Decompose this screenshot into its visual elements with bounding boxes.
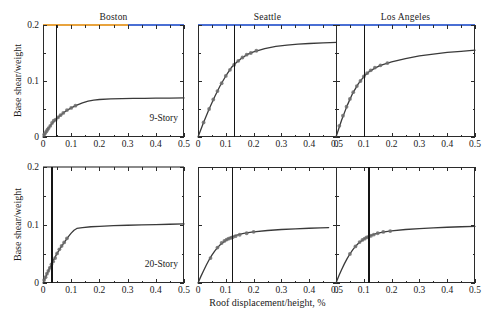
x-tick-label: 0.2 (93, 285, 105, 295)
y-tick-right (471, 283, 475, 284)
data-point-markers (348, 229, 392, 256)
x-tick-top (184, 167, 185, 171)
y-tick-right (471, 137, 475, 138)
panel-seattle-20story (198, 167, 337, 283)
panel-boston-9story: 9-Story (43, 25, 184, 137)
x-tick-label: 0.4 (303, 285, 315, 295)
x-tick-label: 0.1 (65, 139, 77, 149)
median-line (364, 25, 365, 137)
median-line (232, 167, 233, 283)
x-tick-label: 0.2 (386, 285, 398, 295)
x-tick-label: 0.2 (93, 139, 105, 149)
median-line (368, 167, 369, 283)
x-tick-label: 0.5 (469, 285, 481, 295)
x-tick-label: 0.4 (303, 139, 315, 149)
x-tick-label: 0.1 (220, 285, 232, 295)
story-label: 20-Story (145, 259, 178, 269)
x-tick-label: 0 (196, 285, 201, 295)
x-tick-label: 0.5 (178, 285, 190, 295)
x-tick-label: 0 (41, 285, 46, 295)
x-tick-label: 0 (334, 285, 339, 295)
column-title-seattle: Seattle (198, 12, 337, 22)
median-line (56, 25, 57, 137)
x-tick-label: 0.3 (413, 285, 425, 295)
y-tick-label: 0 (15, 278, 39, 288)
column-title-boston: Boston (43, 12, 184, 22)
y-tick-right (180, 137, 184, 138)
x-tick-label: 0.4 (441, 139, 453, 149)
x-tick (475, 279, 476, 283)
x-tick-label: 0 (334, 139, 339, 149)
x-tick-label: 0.2 (386, 139, 398, 149)
y-tick-right (180, 283, 184, 284)
column-title-los-angeles: Los Angeles (336, 12, 475, 22)
x-tick-label: 0.4 (441, 285, 453, 295)
x-tick-label: 0.4 (150, 285, 162, 295)
x-tick-top (475, 25, 476, 29)
x-tick-label: 0.1 (220, 139, 232, 149)
data-point-markers (42, 236, 69, 282)
panel-boston-20story: 20-Story (43, 167, 184, 283)
data-point-markers (42, 104, 77, 137)
pushover-curve (336, 167, 475, 283)
panel-seattle-9story (198, 25, 337, 137)
median-line (234, 25, 235, 137)
panel-losangeles-9story (336, 25, 475, 137)
x-tick-label: 0 (41, 139, 46, 149)
x-tick-label: 0.3 (275, 139, 287, 149)
pushover-curve (198, 25, 337, 137)
y-tick-label: 0 (15, 132, 39, 142)
x-tick-label: 0.1 (358, 285, 370, 295)
x-tick-label: 0.2 (248, 285, 260, 295)
x-tick (475, 133, 476, 137)
x-tick-label: 0.3 (122, 139, 134, 149)
pushover-curve (198, 167, 337, 283)
x-tick-label: 0.5 (469, 139, 481, 149)
x-tick-label: 0.1 (358, 139, 370, 149)
pushover-curves-figure: BostonSeattleLos AngelesBase shear/weigh… (0, 0, 499, 324)
x-tick-top (184, 25, 185, 29)
x-axis-title: Roof displacement/height, % (209, 297, 325, 308)
x-tick-label: 0.3 (122, 285, 134, 295)
x-tick-label: 0 (196, 139, 201, 149)
x-tick (184, 133, 185, 137)
story-label: 9-Story (150, 113, 179, 123)
x-tick (184, 279, 185, 283)
y-tick-label: 0.1 (15, 220, 39, 230)
panel-losangeles-20story (336, 167, 475, 283)
y-tick-label: 0.1 (15, 76, 39, 86)
x-tick-label: 0.5 (178, 139, 190, 149)
x-tick-label: 0.1 (65, 285, 77, 295)
x-tick-label: 0.4 (150, 139, 162, 149)
y-tick-label: 0.2 (15, 162, 39, 172)
data-point-markers (202, 49, 259, 124)
median-line (51, 167, 52, 283)
x-tick-label: 0.2 (248, 139, 260, 149)
y-tick-label: 0.2 (15, 20, 39, 30)
x-tick-label: 0.3 (275, 285, 287, 295)
x-tick-top (475, 167, 476, 171)
pushover-curve (336, 25, 475, 137)
x-tick-label: 0.3 (413, 139, 425, 149)
